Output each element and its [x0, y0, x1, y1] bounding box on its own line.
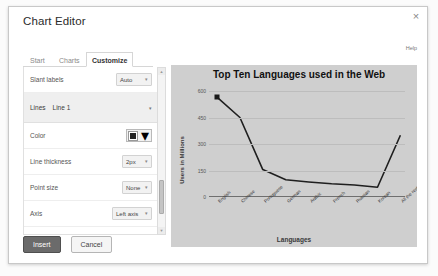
line-thickness-value: 2px — [126, 159, 136, 165]
chart-x-axis-line — [209, 196, 405, 198]
chart-y-tick-label: 150 — [198, 168, 206, 174]
chevron-down-icon: ▾ — [145, 211, 148, 216]
chart-gridline — [209, 118, 405, 119]
axis-value: Left axis — [116, 211, 138, 217]
chart-gridline — [209, 171, 405, 172]
setting-row-point-size[interactable]: Point size None ▾ — [24, 175, 158, 201]
chart-x-axis-label: Languages — [171, 236, 417, 243]
dialog-footer: Insert Cancel — [23, 236, 112, 253]
insert-button[interactable]: Insert — [23, 236, 61, 253]
line-thickness-label: Line thickness — [30, 158, 71, 165]
dialog-title: Chart Editor — [23, 15, 86, 27]
tab-customize[interactable]: Customize — [86, 52, 133, 67]
setting-row-axis[interactable]: Axis Left axis ▾ — [24, 201, 158, 227]
cancel-button[interactable]: Cancel — [71, 236, 113, 253]
slant-labels-value: Auto — [120, 77, 132, 83]
setting-row-error-bars[interactable]: Error bars None ▾ — [24, 227, 158, 235]
setting-row-slant-labels[interactable]: Slant labels Auto ▾ — [24, 67, 158, 93]
screen: × Chart Editor Help Start Charts Customi… — [0, 0, 438, 276]
slant-labels-label: Slant labels — [30, 76, 64, 83]
chevron-down-icon[interactable]: ▾ — [149, 105, 152, 111]
chart-y-tick-label: 0 — [203, 194, 206, 200]
chart-preview: Top Ten Languages used in the Web Users … — [171, 65, 417, 247]
line-thickness-dropdown[interactable]: 2px ▾ — [122, 155, 152, 168]
chart-data-point-marker — [215, 95, 220, 100]
lines-group-value: Line 1 — [53, 104, 71, 111]
settings-panel: Slant labels Auto ▾ Lines Line 1 ▾ Color… — [23, 67, 159, 235]
color-swatch-icon — [129, 132, 137, 140]
chart-gridline — [209, 91, 405, 92]
chart-plot-area: 0150300450600EnglishChinesePortugueseGer… — [209, 91, 405, 197]
chart-gridline — [209, 144, 405, 145]
tab-charts[interactable]: Charts — [54, 52, 85, 67]
tab-start[interactable]: Start — [25, 52, 50, 67]
chevron-down-icon: ▾ — [145, 159, 148, 164]
chart-editor-dialog: × Chart Editor Help Start Charts Customi… — [8, 6, 428, 264]
color-picker[interactable]: ▾ — [126, 129, 152, 142]
chart-y-tick-label: 450 — [198, 115, 206, 121]
lines-group-label: Lines — [30, 104, 46, 111]
scroll-down-icon[interactable]: ▼ — [158, 227, 165, 234]
chevron-down-icon: ▾ — [141, 126, 149, 145]
tab-bar: Start Charts Customize — [23, 52, 153, 67]
chevron-down-icon: ▾ — [145, 185, 148, 190]
setting-row-line-thickness[interactable]: Line thickness 2px ▾ — [24, 149, 158, 175]
chart-y-tick-label: 300 — [198, 141, 206, 147]
color-label: Color — [30, 132, 46, 139]
axis-dropdown[interactable]: Left axis ▾ — [112, 207, 152, 220]
point-size-dropdown[interactable]: None ▾ — [122, 181, 152, 194]
slant-labels-dropdown[interactable]: Auto ▾ — [116, 73, 152, 86]
axis-label: Axis — [30, 210, 42, 217]
chevron-down-icon: ▾ — [145, 77, 148, 82]
setting-row-color[interactable]: Color ▾ — [24, 123, 158, 149]
close-icon[interactable]: × — [409, 9, 423, 23]
chart-y-tick-label: 600 — [198, 88, 206, 94]
help-link[interactable]: Help — [406, 45, 417, 51]
point-size-label: Point size — [30, 184, 58, 191]
point-size-value: None — [126, 185, 140, 191]
chart-y-axis-label: Users in Millions — [179, 125, 185, 195]
setting-group-lines[interactable]: Lines Line 1 ▾ — [24, 93, 158, 123]
scroll-up-icon[interactable]: ▲ — [158, 68, 165, 75]
chart-title: Top Ten Languages used in the Web — [213, 69, 393, 81]
settings-scrollbar[interactable]: ▲ ▼ — [157, 67, 166, 235]
scrollbar-thumb[interactable] — [159, 180, 164, 214]
